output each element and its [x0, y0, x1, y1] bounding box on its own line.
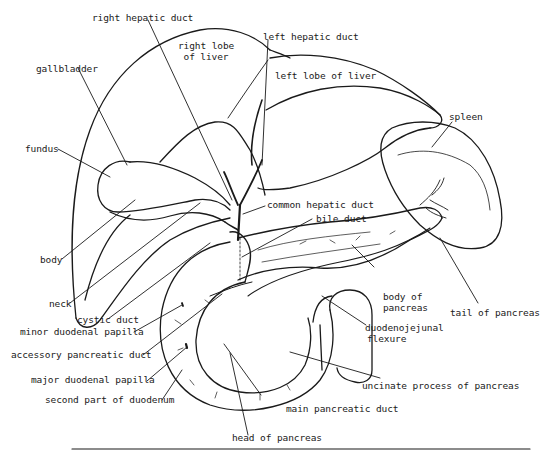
accessory-pancreatic-duct-path [210, 282, 252, 296]
cystic-duct-path [225, 222, 238, 230]
liver-left-lobe-lower [258, 128, 430, 190]
label-cystic-duct: cystic duct [77, 314, 139, 325]
label-spleen: spleen [449, 111, 483, 122]
label-body: body [40, 254, 62, 265]
left-hepatic-duct-path [240, 160, 262, 205]
label-right-lobe-of-liver: right lobe of liver [178, 40, 234, 62]
leader-duodenojejunal [322, 296, 366, 325]
leader-gallbladder [78, 68, 127, 165]
label-body-of-pancreas: body of pancreas [383, 291, 428, 313]
label-second-part-of-duodenum: second part of duodenum [45, 394, 174, 405]
gallbladder-upper [130, 162, 230, 205]
leader-common-hepatic-duct [243, 206, 265, 214]
spleen-inner-edge [398, 151, 490, 210]
label-right-lobe-line2: of liver [178, 51, 234, 62]
label-neck: neck [49, 298, 71, 309]
label-fundus: fundus [25, 143, 59, 154]
leader-main-pancreatic-duct [224, 344, 261, 395]
label-duodenojejunal-line1: duodenojejunal [365, 322, 444, 333]
label-tail-of-pancreas: tail of pancreas [450, 307, 540, 318]
leader-spleen [432, 122, 452, 147]
liver-right-lobe-bottom [76, 218, 230, 327]
label-uncinate-process: uncinate process of pancreas [362, 380, 519, 391]
label-body-of-pancreas-line2: pancreas [383, 302, 428, 313]
label-accessory-pancreatic-duct: accessory pancreatic duct [11, 349, 152, 360]
label-main-pancreatic-duct: main pancreatic duct [286, 403, 398, 414]
leader-uncinate [290, 352, 380, 378]
duodenum-texture [175, 300, 290, 400]
splenic-vessels [420, 178, 448, 218]
label-bile-duct: bile duct [316, 213, 367, 224]
label-major-duodenal-papilla: major duodenal papilla [31, 374, 155, 385]
leader-bile-duct [242, 219, 312, 257]
leader-neck [70, 203, 200, 303]
label-gallbladder: gallbladder [36, 63, 98, 74]
label-right-hepatic-duct: right hepatic duct [92, 12, 193, 23]
label-minor-duodenal-papilla: minor duodenal papilla [20, 326, 144, 337]
label-head-of-pancreas: head of pancreas [232, 432, 322, 443]
label-left-lobe-of-liver: left lobe of liver [275, 70, 376, 81]
label-common-hepatic-duct: common hepatic duct [267, 199, 374, 210]
leader-lines [58, 20, 478, 435]
label-right-lobe-line1: right lobe [178, 40, 234, 51]
label-left-hepatic-duct: left hepatic duct [263, 31, 359, 42]
pancreas-lower-edge [238, 218, 442, 280]
common-hepatic-duct-path [238, 205, 240, 240]
main-pancreatic-duct-path [248, 228, 430, 296]
leader-body-of-pancreas [352, 245, 374, 267]
duodenum-inner [196, 282, 311, 393]
label-duodenojejunal-flexure: duodenojejunal flexure [365, 322, 444, 344]
liver-left-lobe-outline [270, 55, 442, 128]
pancreas-texture [258, 231, 395, 262]
leader-cystic-duct [108, 243, 210, 319]
label-body-of-pancreas-line1: body of [383, 291, 428, 302]
minor-papilla-mark [182, 303, 183, 306]
leader-fundus [58, 149, 110, 177]
ligamentum-teres [228, 60, 268, 118]
leader-left-hepatic-duct [262, 40, 268, 165]
liver-left-lobe-ridge [266, 86, 440, 115]
label-duodenojejunal-line2: flexure [365, 333, 444, 344]
